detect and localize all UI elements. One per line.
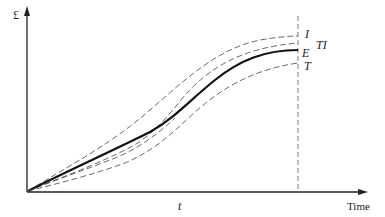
- curve-TI: [28, 43, 298, 191]
- curve-label-TI: TI: [316, 39, 327, 51]
- x-axis-label: Time: [347, 200, 370, 212]
- curve-label-E: E: [302, 47, 309, 59]
- y-axis-arrow-icon: [24, 6, 30, 16]
- curve-label-T: T: [304, 60, 311, 72]
- curve-label-I: I: [305, 28, 309, 40]
- growth-diagram: [0, 0, 385, 217]
- curve-I: [28, 36, 298, 191]
- curve-E: [28, 50, 298, 191]
- x-axis-arrow-icon: [358, 189, 368, 195]
- y-axis-label: £: [13, 9, 19, 21]
- time-marker-label: t: [178, 200, 181, 212]
